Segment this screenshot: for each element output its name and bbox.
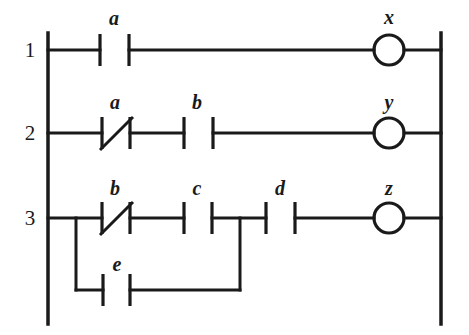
ladder-diagram-svg: 1 a x 2: [0, 0, 469, 335]
ladder-diagram-canvas: 1 a x 2: [0, 0, 469, 335]
coil-label-z: z: [384, 177, 393, 199]
rung-3-contact-b-nc[interactable]: [100, 202, 133, 235]
branch-contact-e[interactable]: [103, 274, 130, 306]
rung-2: 2 a b y: [25, 91, 441, 150]
rung-3-contact-c[interactable]: [184, 202, 212, 234]
rung-1-coil-x[interactable]: [374, 35, 404, 65]
contact-label-c-rung3: c: [193, 177, 202, 199]
contact-label-d-rung3: d: [275, 177, 286, 199]
rung-2-contact-a-nc[interactable]: [100, 117, 133, 150]
contact-label-b-rung3: b: [110, 177, 120, 199]
coil-label-y: y: [383, 91, 394, 114]
rung-1: 1 a x: [25, 6, 441, 66]
rung-3-coil-z[interactable]: [374, 203, 404, 233]
coil-label-x: x: [383, 6, 394, 28]
contact-label-a-rung1: a: [109, 7, 119, 29]
rung-number-3: 3: [25, 206, 36, 230]
rung-2-contact-b[interactable]: [184, 117, 213, 149]
rung-3: 3 b c d: [25, 177, 441, 306]
contact-label-a-rung2: a: [110, 91, 120, 113]
contact-nc-slash: [100, 117, 133, 150]
contact-label-e-branch: e: [113, 253, 122, 275]
contact-label-b-rung2: b: [192, 91, 202, 113]
rung-number-1: 1: [25, 38, 36, 62]
contact-nc-slash: [100, 202, 133, 235]
rung-number-2: 2: [25, 121, 36, 145]
rung-3-contact-d[interactable]: [266, 202, 295, 234]
rung-2-coil-y[interactable]: [374, 118, 404, 148]
rung-1-contact-a[interactable]: [100, 34, 129, 66]
